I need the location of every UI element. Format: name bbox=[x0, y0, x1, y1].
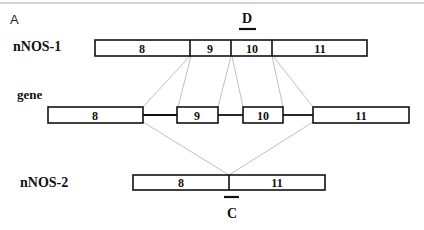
nnos2-label: nNOS-2 bbox=[20, 175, 68, 190]
nnos1-label: nNOS-1 bbox=[13, 39, 61, 54]
mapping-lines-gene-nnos2 bbox=[143, 122, 313, 175]
probe-c-label: C bbox=[227, 206, 237, 221]
nnos1-exon-11: 11 bbox=[314, 42, 325, 56]
gene-exon-11: 11 bbox=[355, 109, 366, 123]
gene-exon-8: 8 bbox=[92, 109, 98, 123]
nnos2-row: nNOS-2 8 11 bbox=[20, 175, 325, 190]
nnos1-exon-10: 10 bbox=[246, 42, 258, 56]
gene-exon-10: 10 bbox=[257, 109, 269, 123]
map-line bbox=[143, 122, 229, 175]
probe-d-label: D bbox=[242, 11, 252, 26]
map-line bbox=[178, 56, 191, 107]
nnos1-exon-8: 8 bbox=[139, 42, 145, 56]
nnos2-exon-11: 11 bbox=[271, 176, 282, 190]
panel-label: A bbox=[10, 12, 19, 27]
gene-exon-9: 9 bbox=[194, 109, 200, 123]
map-line bbox=[229, 122, 313, 175]
map-line bbox=[273, 56, 313, 107]
nnos1-row: nNOS-1 8 9 10 11 bbox=[13, 39, 367, 56]
gene-row: gene 8 9 10 11 bbox=[17, 87, 409, 123]
nnos2-exon-8: 8 bbox=[178, 176, 184, 190]
nnos1-exon-9: 9 bbox=[207, 42, 213, 56]
probe-d: D bbox=[239, 11, 256, 29]
map-line bbox=[143, 56, 190, 107]
gene-label: gene bbox=[17, 87, 43, 102]
map-line bbox=[272, 56, 283, 107]
map-line bbox=[232, 56, 243, 107]
splice-diagram: A nNOS-1 8 9 10 11 D gene bbox=[0, 0, 424, 230]
map-line bbox=[218, 56, 231, 107]
mapping-lines-nnos1-gene bbox=[143, 56, 313, 107]
probe-c: C bbox=[224, 197, 239, 221]
